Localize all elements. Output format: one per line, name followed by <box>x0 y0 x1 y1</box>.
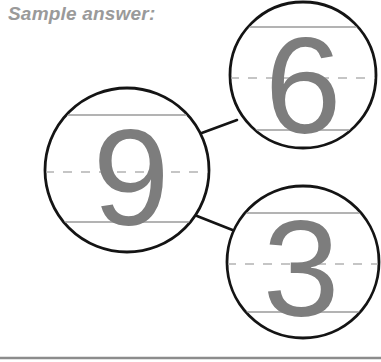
whole-digit: 9 <box>93 100 170 254</box>
connector-to-top-part <box>199 120 237 134</box>
worksheet-canvas: Sample answer: 9 6 <box>0 0 381 362</box>
part-digit-top: 6 <box>265 8 342 162</box>
whole-circle-group[interactable]: 9 <box>45 88 209 254</box>
part-digit-bottom: 3 <box>263 191 340 345</box>
number-bond-diagram: 9 6 3 <box>0 0 381 362</box>
connector-to-bottom-part <box>197 216 235 231</box>
part-circle-top-group[interactable]: 6 <box>230 2 381 162</box>
part-circle-bottom-group[interactable]: 3 <box>227 186 381 345</box>
